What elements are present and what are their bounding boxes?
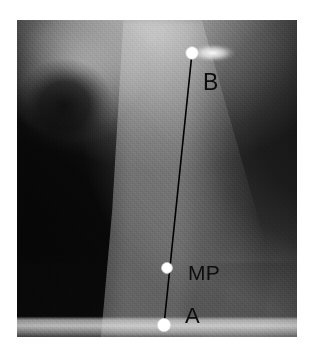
measurement-line-group (164, 53, 192, 325)
landmark-label-a: A (185, 305, 200, 327)
landmark-marker-mp (162, 263, 173, 274)
landmark-label-mp: MP (188, 262, 220, 283)
landmark-label-b: B (203, 71, 219, 94)
annotation-overlay (0, 0, 314, 356)
figure-root: B MP A (0, 0, 314, 356)
landmark-marker-b (186, 47, 198, 59)
landmark-marker-a (157, 318, 170, 331)
measurement-line-a-to-b (164, 53, 192, 325)
